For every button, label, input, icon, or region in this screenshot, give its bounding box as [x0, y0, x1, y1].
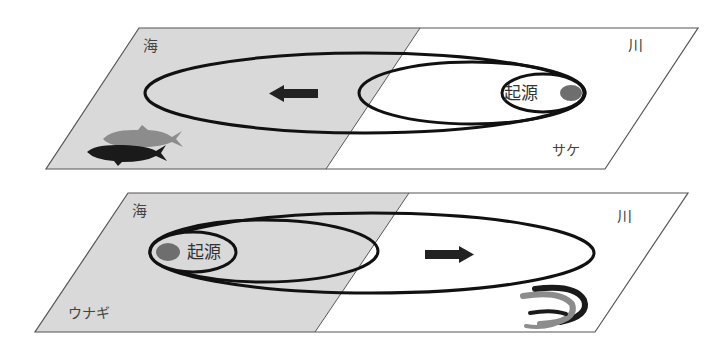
- species-label: サケ: [552, 142, 580, 158]
- river-label: 川: [617, 208, 632, 226]
- sea-label: 海: [143, 37, 158, 55]
- migration-origin-diagram: 起源 海 川 サケ 起源: [0, 0, 720, 359]
- species-label: ウナギ: [68, 305, 110, 321]
- origin-dot: [560, 85, 582, 101]
- origin-label: 起源: [504, 83, 538, 103]
- panel-eel: 起源 海 川 ウナギ: [35, 193, 688, 332]
- origin-label: 起源: [187, 242, 221, 262]
- sea-label: 海: [132, 202, 147, 220]
- river-label: 川: [628, 37, 643, 55]
- origin-dot: [156, 243, 180, 261]
- panel-salmon: 起源 海 川 サケ: [46, 28, 698, 169]
